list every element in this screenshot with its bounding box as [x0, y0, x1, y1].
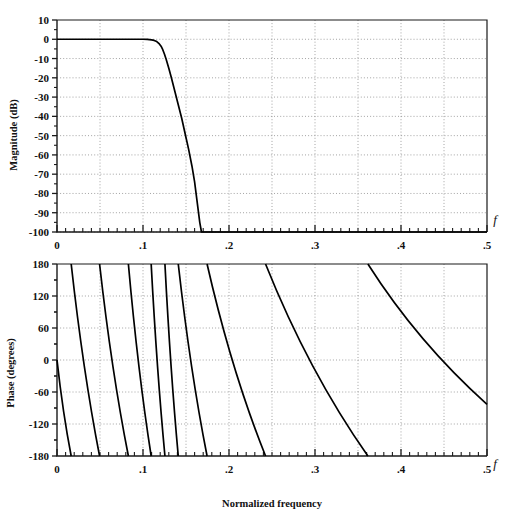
- magnitude-y-tick-label: -70: [34, 168, 49, 180]
- phase-plot-svg: 0.1.2.3.4.5 180120600-60-120-180 Phase (…: [0, 255, 509, 524]
- filter-frequency-response-figure: 0.1.2.3.4.5 100-10-20-30-40-50-60-70-80-…: [0, 0, 509, 524]
- magnitude-y-tick-label: -40: [34, 110, 49, 122]
- phase-gridlines: [57, 264, 487, 456]
- magnitude-x-tick-label: 0: [54, 239, 60, 251]
- magnitude-x-tick-label: .3: [311, 239, 320, 251]
- magnitude-x-tick-label: .1: [139, 239, 147, 251]
- magnitude-x-tick-label: .5: [483, 239, 492, 251]
- phase-y-tick-label: 0: [44, 354, 50, 366]
- magnitude-y-tick-label: 10: [38, 14, 50, 26]
- magnitude-y-axis-title: Magnitude (dB): [8, 99, 20, 171]
- magnitude-y-tick-label: -60: [34, 149, 49, 161]
- phase-y-tick-label: -60: [34, 386, 49, 398]
- magnitude-y-tick-label: -100: [29, 226, 50, 238]
- phase-frequency-symbol: f: [493, 456, 499, 471]
- magnitude-y-tick-label: -10: [34, 53, 49, 65]
- magnitude-y-tick-label: -50: [34, 130, 49, 142]
- phase-y-tick-labels: 180120600-60-120-180: [29, 258, 50, 462]
- magnitude-gridlines: [57, 20, 487, 232]
- magnitude-plot-svg: 0.1.2.3.4.5 100-10-20-30-40-50-60-70-80-…: [0, 0, 509, 262]
- phase-branch: [368, 264, 487, 404]
- magnitude-ticks: [52, 20, 487, 232]
- magnitude-y-tick-label: -80: [34, 187, 49, 199]
- phase-branch: [57, 360, 71, 456]
- magnitude-y-tick-labels: 100-10-20-30-40-50-60-70-80-90-100: [29, 14, 50, 238]
- phase-x-tick-label: .1: [139, 463, 147, 475]
- phase-ticks: [52, 264, 487, 456]
- phase-x-tick-label: .4: [397, 463, 406, 475]
- phase-x-tick-label: .3: [311, 463, 320, 475]
- phase-x-tick-label: .2: [225, 463, 234, 475]
- phase-y-tick-label: -120: [29, 418, 50, 430]
- magnitude-y-tick-label: 0: [44, 33, 50, 45]
- phase-plot-panel: 0.1.2.3.4.5 180120600-60-120-180 Phase (…: [0, 255, 509, 524]
- phase-y-axis-title: Phase (degrees): [5, 338, 17, 408]
- magnitude-y-tick-label: -30: [34, 91, 49, 103]
- magnitude-x-tick-label: .2: [225, 239, 234, 251]
- phase-x-tick-label: 0: [54, 463, 60, 475]
- magnitude-x-tick-labels: 0.1.2.3.4.5: [54, 239, 491, 251]
- magnitude-frequency-symbol: f: [493, 212, 499, 227]
- phase-y-tick-label: 120: [33, 290, 50, 302]
- phase-y-tick-label: 180: [33, 258, 50, 270]
- phase-y-tick-label: -180: [29, 450, 50, 462]
- magnitude-y-tick-label: -90: [34, 207, 49, 219]
- phase-x-tick-labels: 0.1.2.3.4.5: [54, 463, 491, 475]
- magnitude-y-tick-label: -20: [34, 72, 49, 84]
- phase-branch: [165, 264, 178, 456]
- phase-x-tick-label: .5: [483, 463, 492, 475]
- phase-x-axis-title: Normalized frequency: [222, 498, 323, 509]
- magnitude-plot-panel: 0.1.2.3.4.5 100-10-20-30-40-50-60-70-80-…: [0, 0, 509, 262]
- phase-y-tick-label: 60: [38, 322, 50, 334]
- magnitude-x-tick-label: .4: [397, 239, 406, 251]
